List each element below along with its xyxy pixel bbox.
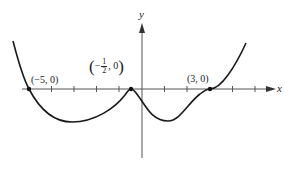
fraction: 12 (101, 58, 107, 75)
fraction-denominator: 2 (102, 67, 106, 75)
minus-sign: − (95, 60, 101, 71)
point-neg5 (27, 87, 31, 91)
point-label-3: (3, 0) (187, 74, 209, 84)
point-label-neg-half: (−12, 0) (89, 58, 124, 75)
point-label-neg5: (−5, 0) (31, 75, 58, 85)
point-3 (208, 87, 212, 91)
point-neg-half (129, 87, 133, 91)
x-axis-arrow-icon (266, 86, 276, 92)
label-suffix: , 0 (108, 60, 118, 71)
y-axis-label: y (139, 9, 144, 20)
close-paren: ) (118, 57, 124, 76)
y-axis-arrow-icon (139, 23, 145, 33)
graph-canvas (0, 0, 293, 170)
x-axis-label: x (277, 83, 282, 94)
